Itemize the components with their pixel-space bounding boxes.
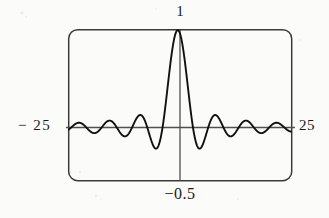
- top-value-label: 1: [164, 4, 196, 19]
- left-xmin-label: − 25: [18, 118, 51, 133]
- right-xmax-label: 25: [299, 118, 315, 133]
- bottom-value-label: −0.5: [150, 186, 210, 202]
